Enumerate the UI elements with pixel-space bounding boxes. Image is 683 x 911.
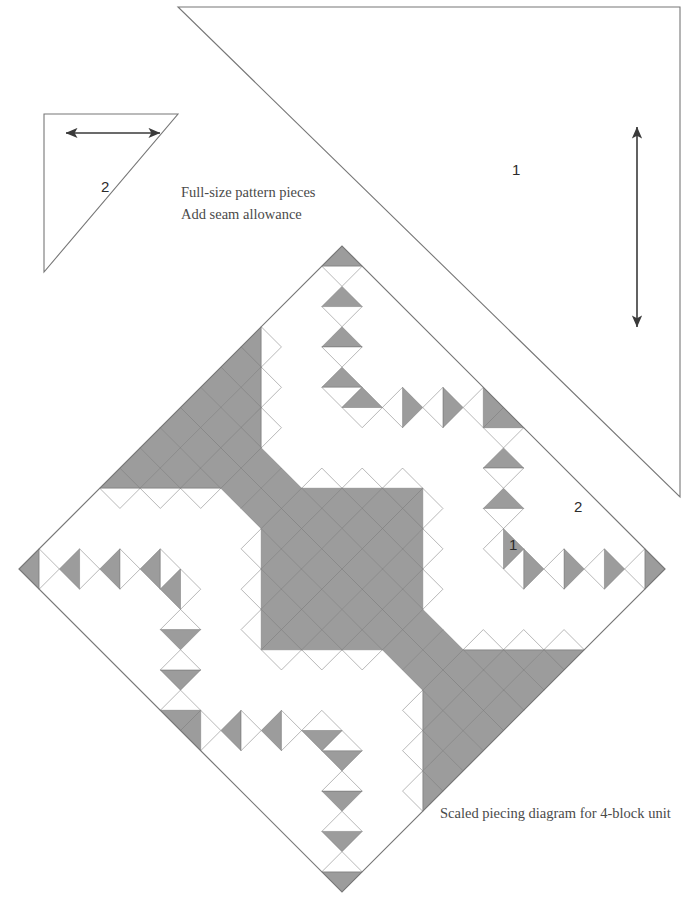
diagram-label-piece-2: 2 bbox=[574, 498, 583, 515]
piece-2-outline bbox=[44, 114, 178, 272]
pattern-sheet: 2 1 Full-size pattern pieces Add seam al… bbox=[0, 0, 683, 911]
quilt-pattern-artwork bbox=[0, 0, 683, 911]
diagram-label-piece-1: 1 bbox=[509, 536, 518, 553]
caption-full-size-pattern-pieces: Full-size pattern pieces bbox=[181, 184, 315, 201]
piece-1-label: 1 bbox=[512, 161, 521, 178]
caption-scaled-piecing-diagram: Scaled piecing diagram for 4-block unit bbox=[440, 805, 671, 822]
piece-2-label: 2 bbox=[101, 178, 110, 195]
caption-add-seam-allowance: Add seam allowance bbox=[181, 206, 302, 223]
